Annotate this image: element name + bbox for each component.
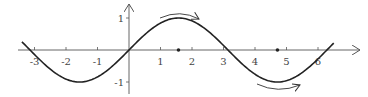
x-tick-label: 3 [220, 56, 226, 67]
y-tick-label: 1 [118, 13, 124, 24]
y-tick: 1 [118, 13, 129, 24]
x-tick-label: 4 [252, 56, 258, 67]
y-tick: -1 [114, 77, 129, 88]
x-tick-label: 2 [189, 56, 195, 67]
marked-point [276, 48, 280, 52]
y-tick-label: -1 [114, 77, 124, 88]
marked-point [177, 48, 181, 52]
x-tick-label: -2 [61, 56, 71, 67]
x-tick-label: -1 [93, 56, 103, 67]
y-ticks: 1-1 [114, 13, 129, 88]
x-tick-label: 5 [283, 56, 289, 67]
curved-arrow-bottom [257, 84, 300, 89]
sine-chart: -3-2-1123456 1-1 [0, 0, 368, 97]
x-tick-label: 1 [157, 56, 163, 67]
